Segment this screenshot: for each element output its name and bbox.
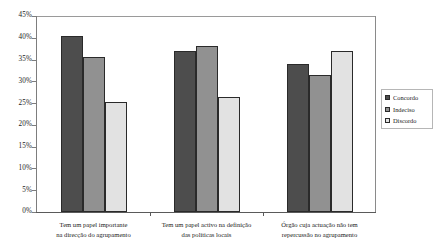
bar-indeciso: [309, 75, 331, 212]
legend-item: Concordo: [385, 93, 430, 102]
legend-item-label: Discordo: [393, 117, 416, 124]
x-axis-category-label: Tem um papel activo na definiçãodas polí…: [142, 220, 271, 239]
category-label-line: Órgão cuja actuação não tem: [255, 220, 384, 230]
bar-group: [61, 16, 127, 212]
y-axis-tick-label: 15%: [4, 143, 32, 150]
bar-indeciso: [83, 57, 105, 212]
y-axis-tick-label: 25%: [4, 100, 32, 107]
bar-group: [174, 16, 240, 212]
bar-discordo: [331, 51, 353, 212]
bar-concordo: [61, 36, 83, 212]
category-label-line: Tem um papel importante: [29, 220, 158, 230]
bar-concordo: [287, 64, 309, 212]
category-label-line: repercussão no agrupamento: [255, 230, 384, 240]
x-axis-tick-mark: [263, 212, 264, 216]
legend-swatch-icon: [385, 107, 390, 112]
bar-discordo: [218, 97, 240, 212]
legend-item-label: Concordo: [393, 94, 418, 101]
legend-item-label: Indeciso: [393, 106, 415, 113]
y-axis-tick-label: 10%: [4, 165, 32, 172]
category-label-line: na direcção do agrupamento: [29, 230, 158, 240]
bar-discordo: [105, 102, 127, 212]
category-label-line: das políticas locais: [142, 230, 271, 240]
chart-legend: ConcordoIndecisoDiscordo: [381, 89, 433, 129]
bar-group: [287, 16, 353, 212]
legend-item: Indeciso: [385, 105, 430, 114]
category-label-line: Tem um papel activo na definição: [142, 220, 271, 230]
legend-swatch-icon: [385, 118, 390, 123]
bar-indeciso: [196, 46, 218, 212]
y-axis-tick-label: 45%: [4, 12, 32, 19]
x-axis-category-label: Tem um papel importantena direcção do ag…: [29, 220, 158, 239]
x-axis-category-label: Órgão cuja actuação não temrepercussão n…: [255, 220, 384, 239]
bar-chart: 45%40%35%30%25%20%15%10%5%0% Tem um pape…: [0, 0, 435, 252]
y-axis-labels: 45%40%35%30%25%20%15%10%5%0%: [4, 0, 32, 252]
legend-item: Discordo: [385, 116, 430, 125]
legend-swatch-icon: [385, 95, 390, 100]
y-axis-tick-label: 35%: [4, 56, 32, 63]
x-axis-tick-mark: [150, 212, 151, 216]
plot-area: [37, 16, 376, 212]
x-axis-line: [36, 212, 376, 213]
y-axis-tick-label: 20%: [4, 121, 32, 128]
y-axis-tick-label: 40%: [4, 34, 32, 41]
y-axis-tick-label: 5%: [4, 187, 32, 194]
y-axis-tick-label: 0%: [4, 208, 32, 215]
bar-concordo: [174, 51, 196, 212]
y-axis-tick-label: 30%: [4, 78, 32, 85]
